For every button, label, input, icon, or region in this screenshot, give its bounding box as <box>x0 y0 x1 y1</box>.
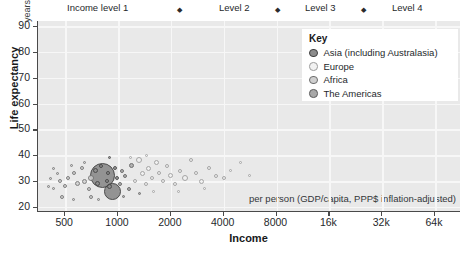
data-point-bubble <box>144 182 148 186</box>
income-level-3-label: Level 3 <box>305 2 336 13</box>
legend-swatch-circle-icon <box>309 62 318 71</box>
y-gridline <box>38 26 460 28</box>
data-point-bubble <box>150 176 154 180</box>
data-point-bubble <box>199 179 204 184</box>
data-point-bubble <box>189 158 193 162</box>
data-point-bubble <box>118 182 122 186</box>
y-tick-mark <box>33 78 37 79</box>
data-point-bubble <box>108 156 111 159</box>
data-point-bubble <box>168 173 173 178</box>
x-axis-note: per person (GDP/capita, PPP$ inflation-a… <box>249 193 456 204</box>
y-gridline <box>38 104 460 106</box>
data-point-bubble <box>152 190 155 193</box>
data-point-bubble <box>146 166 151 171</box>
data-point-bubble <box>145 154 148 157</box>
legend-entry[interactable]: Europe <box>309 60 452 74</box>
y-tick-mark <box>33 181 37 182</box>
y-tick-mark <box>33 207 37 208</box>
y-tick-mark <box>33 155 37 156</box>
data-point-bubble <box>127 187 131 191</box>
data-point-bubble <box>129 163 134 168</box>
y-tick-label: 30 <box>4 174 30 186</box>
legend-entry[interactable]: Asia (including Australasia) <box>309 46 452 60</box>
data-point-bubble <box>60 195 64 199</box>
x-axis-title: Income <box>37 232 460 244</box>
data-point-bubble <box>47 185 50 188</box>
data-point-bubble <box>248 174 251 177</box>
y-axis-title: Life expectancy <box>8 18 20 158</box>
data-point-bubble <box>133 179 137 183</box>
data-point-bubble <box>82 179 87 184</box>
legend-title: Key <box>309 33 452 44</box>
data-point-bubble <box>161 179 165 183</box>
legend-key: Key Asia (including Australasia)EuropeAf… <box>302 29 458 101</box>
x-tick-label: 32k <box>361 216 401 228</box>
data-point-bubble <box>87 187 91 191</box>
data-point-bubble <box>138 192 141 195</box>
data-point-bubble <box>66 176 70 180</box>
y-gridline <box>38 155 460 157</box>
data-point-bubble <box>89 195 93 199</box>
income-level-4-label: Level 4 <box>392 2 423 13</box>
y-tick-label: 90 <box>4 19 30 31</box>
legend-entry-label: The Americas <box>324 88 382 99</box>
data-point-bubble <box>207 166 211 170</box>
data-point-bubble <box>72 198 75 201</box>
data-point-bubble <box>75 181 80 186</box>
y-gridline <box>38 129 460 131</box>
x-tick-label: 8000 <box>256 216 296 228</box>
legend-swatch-circle-icon <box>309 76 318 85</box>
data-point-bubble <box>97 198 100 201</box>
data-point-bubble <box>229 169 232 172</box>
data-point-bubble <box>194 171 198 175</box>
data-point-bubble <box>140 171 145 176</box>
data-point-bubble <box>56 172 59 175</box>
x-tick-label: 16k <box>308 216 348 228</box>
y-tick-label: 40 <box>4 148 30 160</box>
x-tick-label: 500 <box>44 216 84 228</box>
data-point-bubble <box>173 182 177 186</box>
figure-scatter-income-vs-life-expectancy: Income level 1 ◆ Level 2 ◆ Level 3 ◆ Lev… <box>0 0 467 260</box>
legend-entry-label: Europe <box>324 61 355 72</box>
data-point-bubble <box>72 171 76 175</box>
data-point-bubble <box>157 171 161 175</box>
data-point-bubble <box>123 174 127 178</box>
data-point-bubble <box>136 157 142 163</box>
diamond-marker-icon-1: ◆ <box>177 6 182 13</box>
data-point-bubble <box>178 169 182 173</box>
legend-entry[interactable]: Africa <box>309 73 452 87</box>
data-point-bubble <box>120 169 124 173</box>
data-point-bubble <box>52 187 55 190</box>
legend-entry[interactable]: The Americas <box>309 87 452 101</box>
x-tick-label: 2000 <box>150 216 190 228</box>
y-tick-label: 20 <box>4 200 30 212</box>
diamond-marker-icon-3: ◆ <box>361 6 366 13</box>
data-point-bubble <box>52 167 55 170</box>
data-point-bubble <box>214 174 218 178</box>
data-point-bubble <box>154 160 159 165</box>
data-point-bubble <box>105 179 109 183</box>
y-tick-label: 80 <box>4 45 30 57</box>
y-tick-label: 50 <box>4 122 30 134</box>
data-point-bubble <box>70 164 73 167</box>
y-tick-label: 60 <box>4 97 30 109</box>
y-tick-label: 70 <box>4 71 30 83</box>
data-point-bubble <box>122 195 125 198</box>
data-point-bubble <box>83 161 86 164</box>
x-tick-label: 1000 <box>97 216 137 228</box>
legend-entry-label: Africa <box>324 74 348 85</box>
data-point-bubble <box>129 156 132 159</box>
data-point-bubble <box>80 166 84 170</box>
y-tick-mark <box>33 26 37 27</box>
legend-entries: Asia (including Australasia)EuropeAfrica… <box>309 46 452 100</box>
income-level-band: Income level 1 ◆ Level 2 ◆ Level 3 ◆ Lev… <box>37 0 460 18</box>
data-point-bubble <box>177 190 180 193</box>
income-level-2-label: Level 2 <box>219 2 250 13</box>
y-tick-mark <box>33 52 37 53</box>
x-tick-label: 4000 <box>203 216 243 228</box>
legend-swatch-circle-icon <box>309 89 318 98</box>
data-point-bubble <box>99 164 103 168</box>
data-point-bubble <box>203 187 206 190</box>
data-point-bubble <box>49 177 52 180</box>
legend-swatch-circle-icon <box>309 49 318 58</box>
